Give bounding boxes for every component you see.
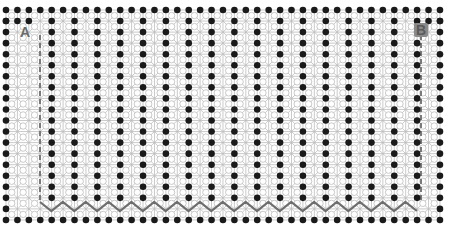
- lattice-diagram: A B: [0, 0, 452, 227]
- bond-network: [6, 10, 440, 220]
- label-a: A: [20, 25, 30, 39]
- lattice-svg: [0, 0, 452, 227]
- label-b: B: [414, 23, 428, 37]
